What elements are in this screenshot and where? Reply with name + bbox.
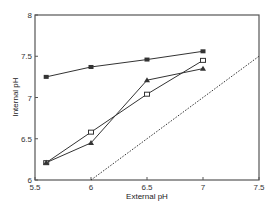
y-axis-label: Internal pH bbox=[11, 77, 20, 116]
x-tick-label: 7 bbox=[201, 183, 206, 192]
x-tick-label: 6.5 bbox=[141, 183, 153, 192]
filled-square-marker bbox=[201, 49, 206, 53]
filled-triangle-marker bbox=[200, 66, 206, 71]
x-tick-label: 6 bbox=[89, 183, 94, 192]
x-axis-label: External pH bbox=[126, 192, 168, 201]
plot-border bbox=[35, 15, 259, 180]
axis-ticks: 5.566.577.566.577.58 bbox=[21, 11, 265, 192]
y-tick-label: 7 bbox=[28, 94, 33, 103]
series-filled-square bbox=[44, 49, 206, 79]
filled-square-marker bbox=[89, 65, 94, 69]
chart: 5.566.577.566.577.58 External pH Interna… bbox=[0, 0, 279, 209]
y-tick-label: 6 bbox=[28, 176, 33, 185]
open-square-marker bbox=[201, 58, 206, 62]
filled-square-marker bbox=[44, 75, 49, 79]
series-line bbox=[46, 60, 203, 162]
filled-square-marker bbox=[145, 58, 150, 62]
open-square-marker bbox=[89, 130, 94, 134]
open-square-marker bbox=[145, 92, 150, 96]
series-layer bbox=[43, 49, 259, 180]
plot-frame bbox=[35, 15, 259, 180]
series-filled-triangle bbox=[43, 66, 206, 165]
series-open-square bbox=[44, 58, 206, 164]
y-tick-label: 6.5 bbox=[21, 135, 33, 144]
y-tick-label: 7.5 bbox=[21, 52, 33, 61]
series-line bbox=[46, 69, 203, 163]
x-tick-label: 7.5 bbox=[253, 183, 265, 192]
y-tick-label: 8 bbox=[28, 11, 33, 20]
